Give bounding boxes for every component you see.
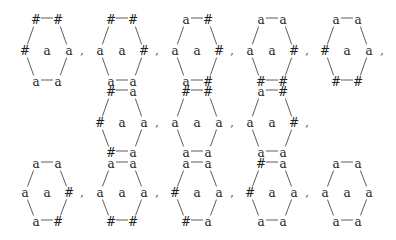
hexagon-edge [285,130,291,147]
separator-comma: , [230,186,234,199]
separator-comma: , [305,44,309,57]
vertex-label: a [171,116,178,130]
hexagon-edge [102,130,108,147]
hexagon-edge [60,200,66,216]
vertex-label: a [43,186,50,200]
separator-comma: , [305,116,309,129]
separator-comma: , [155,116,159,129]
hexagon-edge [252,171,258,187]
hexagon-edge [102,27,108,45]
separator-comma: , [380,44,384,57]
hexagon: aaaa### [246,13,299,89]
vertex-label: # [106,13,116,27]
separator-comma: , [80,186,84,199]
vertex-label: a [21,186,28,200]
vertex-label: # [53,215,63,229]
vertex-label: # [181,215,191,229]
hexagon-edge [285,27,291,45]
vertex-label: a [246,116,253,130]
hexagon: ###aaaa [20,13,73,89]
separator-comma: , [230,116,234,129]
hexagon-edge [135,27,141,45]
hexagon: aa#aa#a [170,157,223,229]
vertex-label: a [246,44,253,58]
hexagon-edge [252,27,258,45]
vertex-label: a [32,215,39,229]
vertex-label: a [257,85,264,99]
vertex-label: # [64,186,74,200]
vertex-label: a [118,186,125,200]
vertex-label: a [257,215,264,229]
hexagon-edge [27,58,33,76]
hexagon-edge [177,130,183,147]
vertex-label: # [203,13,213,27]
hexagon: #a#aa#a [95,85,148,160]
hexagon-diagram: ###aaaa,##aa#aa,a#aa#a#,aaaa###,aa#aa##,… [0,0,396,240]
vertex-label: # [20,44,30,58]
vertex-label: a [118,44,125,58]
hexagon: aa#aa## [320,13,373,89]
vertex-label: a [182,157,189,171]
vertex-label: # [95,116,105,130]
hexagon-edge [285,58,291,76]
vertex-label: a [279,13,286,27]
vertex-label: a [332,215,339,229]
hexagon-edge [135,130,141,147]
separator-comma: , [155,44,159,57]
vertex-label: a [268,44,275,58]
vertex-label: a [140,116,147,130]
hexagon-edge [135,58,141,76]
separator-comma: , [305,186,309,199]
vertex-label: a [365,186,372,200]
vertex-label: a [279,157,286,171]
hexagon: #a#aaaa [245,157,298,229]
vertex-label: # [106,85,116,99]
hexagon-edge [285,171,291,187]
hexagon-edge [327,171,333,187]
vertex-label: a [290,186,297,200]
hexagon-edge [27,200,33,216]
vertex-label: a [343,186,350,200]
vertex-label: a [96,186,103,200]
hexagon-edge [135,99,141,117]
vertex-label: a [32,157,39,171]
vertex-label: a [54,157,61,171]
vertex-label: # [289,44,299,58]
vertex-label: # [139,44,149,58]
vertex-label: # [128,13,138,27]
vertex-label: a [268,186,275,200]
vertex-label: a [204,157,211,171]
vertex-label: a [140,186,147,200]
hexagon-edge [210,58,216,76]
vertex-label: a [215,116,222,130]
hexagon-edge [360,58,366,76]
hexagon-edge [102,200,108,216]
vertex-label: a [354,157,361,171]
vertex-label: a [171,44,178,58]
hexagon: aaaa#a# [21,157,74,229]
vertex-label: a [215,186,222,200]
hexagon: aaaaaaa [321,157,372,229]
vertex-label: a [107,157,114,171]
vertex-label: a [129,85,136,99]
vertex-label: # [245,186,255,200]
vertex-label: a [193,44,200,58]
vertex-label: # [181,85,191,99]
hexagon-edge [360,27,366,45]
hexagon-edge [177,99,183,117]
vertex-label: # [278,85,288,99]
vertex-label: a [332,13,339,27]
hexagon: ##aaaaa [171,85,222,160]
hexagon-edge [252,200,258,216]
vertex-label: a [332,157,339,171]
vertex-label: a [96,44,103,58]
hexagon-edge [27,27,33,45]
hexagon-edge [285,99,291,117]
separator-comma: , [155,186,159,199]
vertex-label: # [53,13,63,27]
vertex-label: a [32,75,39,89]
vertex-label: a [193,186,200,200]
vertex-label: a [193,116,200,130]
vertex-label: a [365,44,372,58]
hexagon-edge [102,171,108,187]
